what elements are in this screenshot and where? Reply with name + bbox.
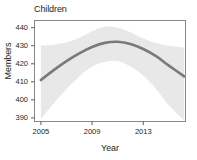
x-axis-ticks: [41, 122, 143, 126]
y-axis-ticks: [31, 28, 35, 118]
chart-figure: Children Members Year 390400410420430440…: [0, 0, 197, 160]
plot-area: [0, 0, 197, 160]
